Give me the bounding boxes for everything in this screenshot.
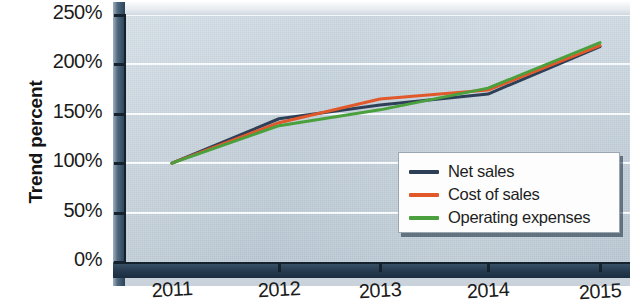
chart-figure: Trend percent Net sales Cost of sales Op… [0, 0, 630, 303]
x-axis-tick-label: 2013 [343, 277, 416, 303]
x-axis-tick [278, 262, 281, 272]
y-axis-tick-label: 0% [10, 248, 102, 271]
y-axis-tick [114, 63, 125, 66]
legend-item-operating-expenses[interactable]: Operating expenses [409, 206, 619, 229]
legend-swatch-net-sales [409, 170, 439, 174]
legend-item-net-sales[interactable]: Net sales [409, 160, 619, 183]
legend-label-operating-expenses: Operating expenses [448, 208, 590, 227]
y-axis-tick [114, 162, 125, 165]
x-axis-tick-label: 2012 [242, 276, 315, 303]
legend-swatch-operating-expenses [409, 216, 439, 220]
legend-label-cost-of-sales: Cost of sales [448, 185, 539, 204]
chart-legend: Net sales Cost of sales Operating expens… [398, 152, 620, 233]
legend-label-net-sales: Net sales [448, 162, 514, 181]
y-axis-tick-label: 250% [10, 1, 102, 24]
x-axis-tick [599, 262, 602, 272]
legend-swatch-cost-of-sales [409, 193, 439, 197]
x-axis-tick-label: 2011 [135, 276, 208, 303]
legend-item-cost-of-sales[interactable]: Cost of sales [409, 183, 619, 206]
y-axis-tick-label: 150% [10, 100, 102, 123]
y-axis-tick-label: 50% [10, 199, 102, 222]
y-axis-tick [114, 14, 125, 17]
y-axis-tick-label: 100% [10, 149, 102, 172]
plot-frame-bottom-bevel [113, 262, 630, 278]
x-axis-tick [487, 262, 490, 272]
series-line [172, 47, 600, 164]
x-axis-tick [379, 262, 382, 272]
x-axis-tick-label: 2015 [563, 278, 630, 303]
y-axis-tick-label: 200% [10, 50, 102, 73]
plot-frame-top-bevel [113, 2, 630, 15]
x-axis-tick-label: 2014 [451, 277, 524, 303]
y-axis-tick [114, 261, 125, 264]
y-axis-tick [114, 113, 125, 116]
y-axis-tick [114, 212, 125, 215]
x-axis-line [124, 262, 630, 264]
